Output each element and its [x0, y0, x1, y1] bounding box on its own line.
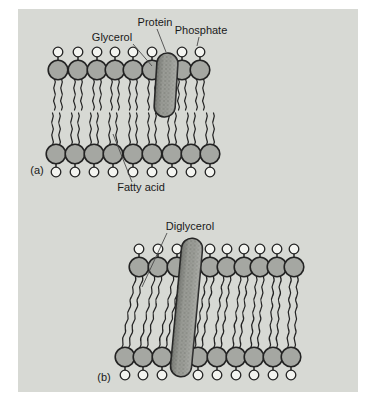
phosphate-group	[53, 47, 63, 57]
protein-a-capsule-shading	[154, 52, 179, 117]
glycerol-head	[263, 347, 283, 367]
phosphate-group	[286, 370, 296, 380]
glycerol-head	[48, 60, 68, 80]
phosphate-group	[222, 244, 232, 254]
glycerol-head	[284, 257, 304, 277]
glycerol-head	[123, 60, 143, 80]
glycerol-head	[103, 144, 123, 164]
glycerol-head	[129, 257, 149, 277]
glycerol-head	[162, 144, 182, 164]
glycerol-head	[123, 144, 143, 164]
phosphate-group	[205, 244, 215, 254]
phosphate-group	[89, 167, 99, 177]
glycerol-head	[133, 347, 153, 367]
phosphate-group	[110, 47, 120, 57]
glycerol-head	[142, 144, 162, 164]
phosphate-group	[268, 370, 278, 380]
protein-label: Protein	[138, 16, 173, 28]
phosphate-label: Phosphate	[175, 24, 228, 36]
phosphate-group	[249, 370, 259, 380]
phosphate-group	[73, 47, 83, 57]
diglycerol-label: Diglycerol	[166, 220, 214, 232]
phosphate-group	[205, 167, 215, 177]
phosphate-group	[212, 370, 222, 380]
phosphate-group	[70, 167, 80, 177]
glycerol-head	[244, 347, 264, 367]
glycerol-head	[226, 347, 246, 367]
phosphate-group	[255, 244, 265, 254]
phosphate-group	[177, 47, 187, 57]
phosphate-group	[128, 47, 138, 57]
phosphate-group	[120, 370, 130, 380]
phosphate-group	[147, 167, 157, 177]
fatty-acid-label: Fatty acid	[117, 181, 165, 193]
phosphate-group	[193, 370, 203, 380]
phosphate-group	[272, 244, 282, 254]
phosphate-group	[147, 47, 157, 57]
phosphate-group	[239, 244, 249, 254]
glycerol-label: Glycerol	[92, 31, 132, 43]
membrane-figure-page: Glycerol Protein Phosphate Fatty acid Di…	[0, 0, 381, 401]
phosphate-group	[231, 370, 241, 380]
phosphate-group	[51, 167, 61, 177]
phosphate-group	[186, 167, 196, 177]
glycerol-head	[190, 60, 210, 80]
glycerol-head	[68, 60, 88, 80]
glycerol-head	[105, 60, 125, 80]
phosphate-group	[138, 370, 148, 380]
phosphate-group	[134, 244, 144, 254]
glycerol-head	[65, 144, 85, 164]
glycerol-head	[46, 144, 66, 164]
phosphate-group	[157, 370, 167, 380]
phosphate-group	[195, 47, 205, 57]
phosphate-group	[167, 167, 177, 177]
panel-b-tag: (b)	[97, 371, 110, 383]
glycerol-head	[181, 144, 201, 164]
glycerol-head	[84, 144, 104, 164]
glycerol-head	[281, 347, 301, 367]
glycerol-head	[152, 347, 172, 367]
membrane-diagram: Glycerol Protein Phosphate Fatty acid Di…	[0, 0, 381, 401]
glycerol-head	[207, 347, 227, 367]
phosphate-group	[289, 244, 299, 254]
phosphate-group	[108, 167, 118, 177]
glycerol-head	[200, 144, 220, 164]
glycerol-head	[115, 347, 135, 367]
panel-a-tag: (a)	[30, 164, 43, 176]
phosphate-group	[92, 47, 102, 57]
glycerol-head	[87, 60, 107, 80]
